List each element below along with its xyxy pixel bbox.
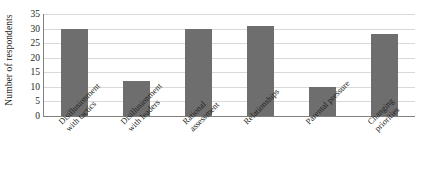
y-tick-label: 20 [31,53,41,63]
y-tick-label: 15 [31,67,41,77]
bar-chart: Number of respondents 05101520253035 Dis… [0,0,423,179]
y-tick-label: 25 [31,38,41,48]
y-axis-tick-labels: 05101520253035 [18,9,42,121]
y-tick-label: 5 [35,96,40,106]
x-axis-line [43,116,415,117]
x-axis-tick-labels: Disillusionment with tacticsDisillusionm… [44,118,415,179]
y-axis-title: Number of respondents [0,0,18,120]
y-axis-title-label: Number of respondents [4,14,14,105]
y-tick-label: 35 [31,9,41,19]
y-tick-label: 30 [31,24,41,34]
y-tick-label: 10 [31,82,41,92]
y-tick-label: 0 [35,111,40,121]
